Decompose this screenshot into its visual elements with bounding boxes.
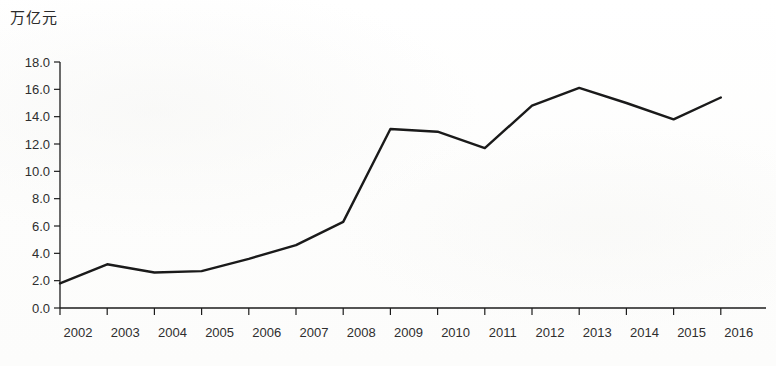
x-axis-tick-label: 2011 (489, 325, 517, 340)
x-axis-tick-label: 2010 (441, 325, 470, 340)
line-chart-plot: 0.02.04.06.08.010.012.014.016.018.0 2002… (0, 0, 776, 366)
x-axis-tick-label: 2015 (677, 325, 706, 340)
y-axis-tick-label: 8.0 (32, 191, 50, 206)
y-axis-tick-label: 14.0 (25, 109, 50, 124)
x-axis-tick-label: 2006 (252, 325, 281, 340)
x-axis-tick-label: 2009 (394, 325, 423, 340)
x-axis-tick-label: 2016 (724, 325, 753, 340)
x-axis-tick-label: 2003 (111, 325, 140, 340)
x-axis-tick-label: 2012 (536, 325, 565, 340)
y-axis-tick-labels: 0.02.04.06.08.010.012.014.016.018.0 (25, 55, 50, 316)
y-axis-tick-label: 0.0 (32, 301, 50, 316)
y-axis-tick-label: 12.0 (25, 137, 50, 152)
x-axis-tick-label: 2002 (64, 325, 93, 340)
x-axis-tick-label: 2013 (583, 325, 612, 340)
y-axis-tick-label: 4.0 (32, 246, 50, 261)
chart-container: 万亿元 0.02.04.06.08.010.012.014.016.018.0 … (0, 0, 776, 366)
x-axis-tick-label: 2004 (158, 325, 187, 340)
x-axis-tick-label: 2014 (630, 325, 659, 340)
y-axis-tick-label: 16.0 (25, 82, 50, 97)
y-axis-tick-label: 2.0 (32, 273, 50, 288)
x-axis-tick-label: 2008 (347, 325, 376, 340)
x-axis-tick-labels: 2002200320042005200620072008200920102011… (64, 325, 754, 340)
x-axis-tick-label: 2005 (205, 325, 234, 340)
data-series-line (60, 88, 721, 283)
y-axis-tick-marks (54, 62, 60, 308)
y-axis-tick-label: 10.0 (25, 164, 50, 179)
y-axis-tick-label: 18.0 (25, 55, 50, 70)
x-axis-tick-marks (60, 308, 721, 315)
x-axis-tick-label: 2007 (300, 325, 329, 340)
y-axis-tick-label: 6.0 (32, 219, 50, 234)
